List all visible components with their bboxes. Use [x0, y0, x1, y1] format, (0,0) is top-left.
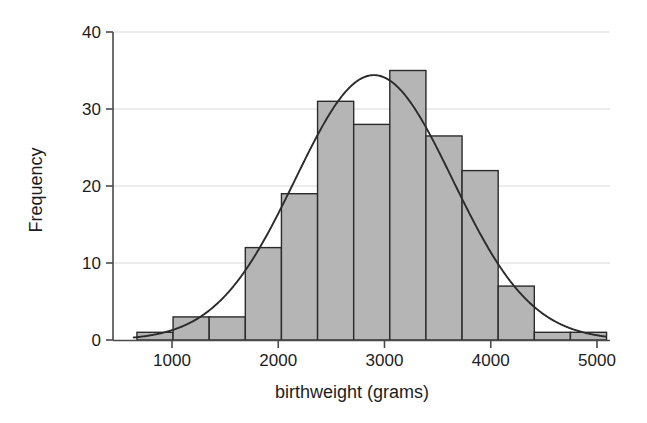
histogram-bar	[318, 101, 354, 340]
x-tick-label: 4000	[472, 351, 510, 370]
chart-canvas: 010203040 10002000300040005000 Frequency…	[0, 0, 647, 423]
histogram-bar	[498, 286, 534, 340]
y-tick-label: 30	[82, 100, 101, 119]
x-tick-label: 5000	[578, 351, 616, 370]
x-tick-label: 2000	[259, 351, 297, 370]
histogram-bar	[390, 71, 426, 341]
histogram-bar	[534, 332, 570, 340]
y-tick-label: 10	[82, 254, 101, 273]
histogram-bar	[426, 136, 462, 340]
histogram-bar	[354, 124, 390, 340]
birthweight-histogram-figure: 010203040 10002000300040005000 Frequency…	[0, 0, 647, 423]
y-tick-label: 0	[92, 331, 101, 350]
y-tick-label: 20	[82, 177, 101, 196]
histogram-bar	[209, 317, 245, 340]
x-tick-label: 1000	[153, 351, 191, 370]
x-axis-title: birthweight (grams)	[275, 382, 429, 402]
histogram-bar	[281, 194, 317, 340]
y-axis-title: Frequency	[26, 147, 46, 232]
y-tick-label: 40	[82, 23, 101, 42]
x-tick-label: 3000	[366, 351, 404, 370]
